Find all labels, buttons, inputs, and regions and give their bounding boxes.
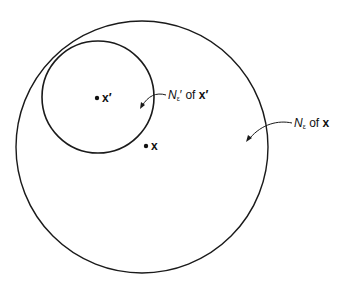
point-x-prime-label: x′ — [102, 91, 112, 105]
outer-neighborhood-label: Nε of x — [294, 116, 329, 130]
neighborhood-diagram: x′ x Nε′ of x′ Nε of x — [0, 0, 349, 295]
point-x-dot — [144, 144, 148, 148]
outer-label-arrow — [250, 122, 292, 138]
point-x-label: x — [151, 139, 158, 153]
outer-neighborhood-circle — [16, 21, 268, 273]
inner-neighborhood-label: Nε′ of x′ — [168, 88, 208, 102]
point-x-prime-dot — [95, 96, 99, 100]
